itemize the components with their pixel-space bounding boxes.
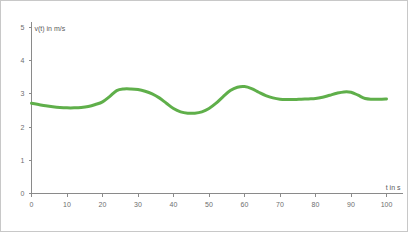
x-axis: 0102030405060708090100 <box>30 194 403 208</box>
y-axis-title: v(t) in m/s <box>35 25 66 33</box>
x-tick-label: 30 <box>134 201 142 208</box>
x-tick-label: 80 <box>312 201 320 208</box>
x-axis-title: t in s <box>386 184 401 191</box>
y-tick-label: 4 <box>21 57 25 64</box>
x-tick-label: 20 <box>99 201 107 208</box>
y-tick-label: 3 <box>21 90 25 97</box>
x-tick-label: 90 <box>347 201 355 208</box>
velocity-curve <box>32 87 387 114</box>
x-tick-label: 70 <box>276 201 284 208</box>
y-tick-label: 1 <box>21 157 25 164</box>
x-tick-label: 60 <box>241 201 249 208</box>
y-tick-label: 2 <box>21 124 25 131</box>
x-tick-label: 50 <box>205 201 213 208</box>
y-tick-label: 0 <box>21 190 25 197</box>
chart-frame: 012345 0102030405060708090100 v(t) in m/… <box>0 0 408 232</box>
x-tick-label: 40 <box>170 201 178 208</box>
y-tick-label: 5 <box>21 24 25 31</box>
x-tick-label: 100 <box>381 201 393 208</box>
chart-screenshot: 012345 0102030405060708090100 v(t) in m/… <box>0 0 408 232</box>
y-axis: 012345 <box>21 22 32 198</box>
x-tick-label: 0 <box>30 201 34 208</box>
chart-series-group <box>32 87 387 114</box>
velocity-time-chart: 012345 0102030405060708090100 v(t) in m/… <box>1 1 408 232</box>
x-tick-label: 10 <box>63 201 71 208</box>
